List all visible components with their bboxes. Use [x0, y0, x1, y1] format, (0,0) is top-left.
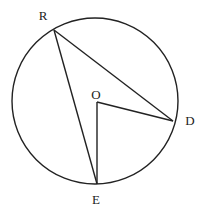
segment-re [54, 30, 97, 184]
label-e: E [92, 192, 100, 206]
circle-diagram: R D E O [0, 0, 202, 206]
label-r: R [39, 8, 48, 23]
label-o: O [91, 87, 100, 102]
label-d: D [185, 113, 194, 128]
